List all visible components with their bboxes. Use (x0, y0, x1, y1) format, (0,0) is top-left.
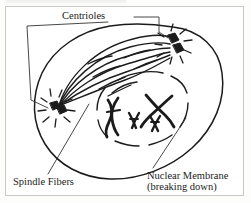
chromosomes-x-shaped (106, 95, 174, 137)
label-nuclear-membrane-line2: (breaking down) (147, 181, 228, 192)
label-nuclear-membrane: Nuclear Membrane (breaking down) (147, 170, 228, 193)
figure-canvas: Centrioles Spindle Fibers Nuclear Membra… (0, 0, 251, 203)
label-centrioles: Centrioles (62, 10, 105, 21)
leader-centrioles-right (134, 17, 168, 38)
label-nuclear-membrane-line1: Nuclear Membrane (147, 170, 228, 181)
leader-spindle-fibers (48, 104, 89, 174)
label-spindle-fibers: Spindle Fibers (13, 176, 74, 187)
centriole-pair-left (38, 89, 75, 127)
